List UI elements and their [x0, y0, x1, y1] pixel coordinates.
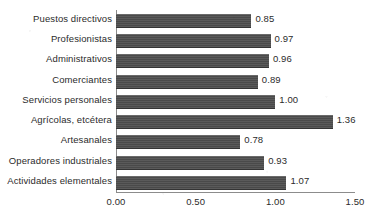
bar-row: 1.00 — [116, 91, 355, 111]
category-label: Administrativos — [0, 53, 112, 64]
bar-value-label: 0.78 — [244, 134, 263, 145]
bar-value-label: 0.93 — [268, 155, 287, 166]
category-label: Puestos directivos — [0, 13, 112, 24]
bar-value-label: 1.07 — [290, 175, 309, 186]
x-tick-label: 1.50 — [346, 196, 365, 207]
bar-row: 0.97 — [116, 30, 355, 50]
bar-value-label: 0.96 — [273, 53, 292, 64]
value-axis-tick-labels: 0.000.501.001.50 — [116, 196, 355, 212]
bar — [116, 95, 275, 109]
bar-value-label: 0.97 — [275, 33, 294, 44]
category-label: Comerciantes — [0, 74, 112, 85]
horizontal-bar-chart: Puestos directivosProfesionistasAdminist… — [0, 0, 371, 220]
bar — [116, 176, 286, 190]
bar-value-label: 1.00 — [279, 94, 298, 105]
bar-row: 0.89 — [116, 71, 355, 91]
category-label: Artesanales — [0, 134, 112, 145]
bar — [116, 34, 271, 48]
bar — [116, 75, 258, 89]
category-label: Profesionistas — [0, 33, 112, 44]
bar-row: 0.78 — [116, 131, 355, 151]
bar — [116, 156, 264, 170]
x-tick-label: 0.00 — [107, 196, 126, 207]
plot-area: 0.850.970.960.891.001.360.780.931.07 — [116, 10, 355, 192]
bar-value-label: 0.85 — [255, 13, 274, 24]
x-tick-label: 0.50 — [186, 196, 205, 207]
bar-value-label: 1.36 — [337, 114, 356, 125]
bar-row: 1.36 — [116, 111, 355, 131]
bar-row: 0.85 — [116, 10, 355, 30]
x-tick-label: 1.00 — [266, 196, 285, 207]
category-label: Servicios personales — [0, 94, 112, 105]
bar — [116, 54, 269, 68]
category-axis-baseline — [116, 192, 355, 193]
bar — [116, 14, 251, 28]
category-label: Operadores industriales — [0, 155, 112, 166]
category-label: Agrícolas, etcétera — [0, 114, 112, 125]
bar-row: 1.07 — [116, 172, 355, 192]
bar — [116, 135, 240, 149]
category-label: Actividades elementales — [0, 175, 112, 186]
category-axis-labels: Puestos directivosProfesionistasAdminist… — [0, 10, 112, 192]
bar-row: 0.93 — [116, 152, 355, 172]
bar-row: 0.96 — [116, 50, 355, 70]
bar — [116, 115, 333, 129]
bar-value-label: 0.89 — [262, 74, 281, 85]
